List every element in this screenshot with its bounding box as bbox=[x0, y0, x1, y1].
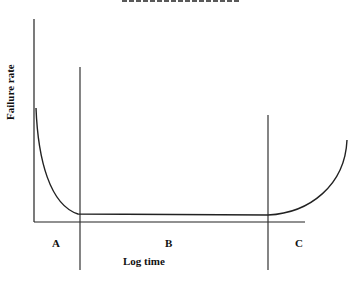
region-label-c: C bbox=[295, 237, 303, 249]
x-axis-label: Log time bbox=[123, 255, 165, 267]
failure-rate-curve bbox=[36, 108, 347, 215]
region-label-a: A bbox=[52, 237, 60, 249]
region-label-b: B bbox=[165, 237, 172, 249]
y-axis-label: Failure rate bbox=[4, 64, 16, 120]
